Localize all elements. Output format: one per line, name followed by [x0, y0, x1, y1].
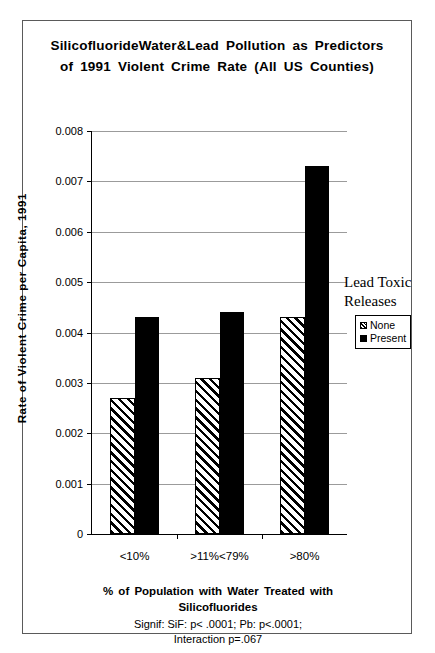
- y-axis-tick-label: 0.004: [55, 327, 83, 339]
- legend-item-label: Present: [370, 332, 406, 345]
- x-axis-category-label: >80%: [290, 550, 320, 562]
- y-axis-tick-label: 0.001: [55, 478, 83, 490]
- y-axis-tick-label: 0.006: [55, 226, 83, 238]
- significance-note: Signif: SiF: p< .0001; Pb: p<.0001; Inte…: [63, 617, 373, 647]
- x-axis-category-label: >11%<79%: [190, 550, 249, 562]
- significance-note-line-2: Interaction p=.067: [63, 632, 373, 647]
- y-axis-tick-label: 0.002: [55, 427, 83, 439]
- x-axis-tick: [177, 534, 178, 539]
- legend-item-present[interactable]: Present: [360, 332, 407, 345]
- x-axis-title: % of Population with Water Treated with …: [63, 583, 373, 615]
- plot-area: 00.0010.0020.0030.0040.0050.0060.0070.00…: [91, 131, 347, 535]
- bar-present-1: [135, 317, 160, 534]
- legend: Lead Toxic Releases NonePresent: [344, 273, 435, 349]
- chart-title: SilicofluorideWater&Lead Pollution as Pr…: [41, 35, 393, 77]
- y-axis-tick-label: 0.008: [55, 125, 83, 137]
- x-axis-tick: [262, 534, 263, 539]
- bar-present-3: [305, 166, 330, 534]
- y-axis-title: Rate of Violent Crime per Capita, 1991: [16, 193, 28, 423]
- legend-item-none[interactable]: None: [360, 319, 407, 332]
- legend-swatch-icon: [360, 322, 367, 329]
- significance-note-line-1: Signif: SiF: p< .0001; Pb: p<.0001;: [63, 617, 373, 632]
- x-axis-category-label: <10%: [120, 550, 150, 562]
- bar-none-1: [110, 398, 135, 534]
- bars-layer: [92, 131, 347, 534]
- legend-item-label: None: [370, 319, 395, 332]
- y-axis-tick-label: 0.003: [55, 377, 83, 389]
- legend-swatch-icon: [360, 335, 367, 342]
- legend-box: NonePresent: [355, 315, 411, 349]
- bar-none-3: [280, 317, 305, 534]
- y-axis-tick-label: 0.005: [55, 276, 83, 288]
- bar-none-2: [195, 378, 220, 534]
- y-axis-tick-label: 0: [77, 528, 83, 540]
- legend-title: Lead Toxic Releases: [344, 273, 435, 311]
- bar-present-2: [220, 312, 245, 534]
- y-axis-tick-label: 0.007: [55, 175, 83, 187]
- figure-frame: SilicofluorideWater&Lead Pollution as Pr…: [22, 20, 412, 634]
- y-axis-tick: [87, 534, 92, 535]
